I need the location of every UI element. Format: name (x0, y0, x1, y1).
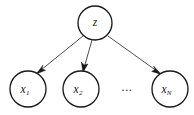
node-x2-label-sub: 2 (79, 88, 83, 96)
node-x1-label-sub: 1 (26, 88, 30, 96)
ellipsis-label: ... (122, 80, 133, 94)
node-xN[interactable]: xN (152, 71, 188, 107)
edge-z-to-xN (108, 36, 159, 73)
arrowhead-z-to-x1 (36, 65, 45, 74)
node-x2[interactable]: x2 (63, 71, 99, 107)
node-x1[interactable]: x1 (10, 71, 46, 107)
arrowhead-z-to-xN (152, 66, 162, 74)
node-xN-label-sub: N (166, 88, 172, 96)
edge-z-to-x1 (39, 36, 84, 72)
graphical-model-figure: z x1 x2 xN ... (0, 0, 194, 115)
edge-group (36, 36, 161, 74)
graph-canvas: z x1 x2 xN ... (0, 0, 194, 115)
node-z-label: z (92, 16, 98, 28)
node-z[interactable]: z (78, 6, 112, 40)
